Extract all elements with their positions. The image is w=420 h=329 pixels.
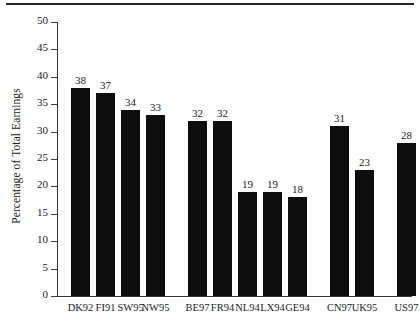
top-divider-rule bbox=[6, 3, 414, 5]
x-tick-label: NL94 bbox=[235, 302, 260, 313]
y-tick-mark bbox=[51, 77, 58, 78]
x-tick-label: GE94 bbox=[285, 302, 310, 313]
bar: 34 bbox=[121, 110, 140, 296]
bar-value-label: 33 bbox=[150, 101, 161, 113]
bar: 37 bbox=[96, 93, 115, 296]
bar-value-label: 34 bbox=[125, 96, 136, 108]
x-axis-line bbox=[57, 296, 412, 297]
bar: 23 bbox=[355, 170, 374, 296]
x-tick-label: SW95 bbox=[117, 302, 143, 313]
x-tick-label: DK92 bbox=[68, 302, 94, 313]
y-tick-mark bbox=[51, 214, 58, 215]
y-tick-label: 25 bbox=[37, 151, 48, 163]
bar-value-label: 32 bbox=[217, 107, 228, 119]
plot-area: 05101520253035404550 3837343332321919183… bbox=[57, 22, 412, 296]
x-tick-label: CN97 bbox=[327, 302, 352, 313]
bar-value-label: 19 bbox=[242, 178, 253, 190]
y-tick-mark bbox=[51, 186, 58, 187]
x-tick-label: UK95 bbox=[352, 302, 378, 313]
y-tick-label: 5 bbox=[43, 261, 49, 273]
y-tick-label: 20 bbox=[37, 178, 48, 190]
y-axis-title: Percentage of Total Earnings bbox=[10, 76, 22, 236]
bar-value-label: 37 bbox=[100, 79, 111, 91]
bar: 28 bbox=[397, 143, 416, 296]
bar-value-label: 28 bbox=[401, 129, 412, 141]
bar: 19 bbox=[263, 192, 282, 296]
bar: 19 bbox=[238, 192, 257, 296]
bar-value-label: 23 bbox=[359, 156, 370, 168]
y-tick-mark bbox=[51, 132, 58, 133]
x-tick-label: LX94 bbox=[260, 302, 285, 313]
y-tick-label: 15 bbox=[37, 206, 48, 218]
y-tick-mark bbox=[51, 269, 58, 270]
y-tick-label: 50 bbox=[37, 14, 48, 26]
bar: 31 bbox=[330, 126, 349, 296]
y-tick-label: 0 bbox=[43, 288, 49, 300]
bar-value-label: 32 bbox=[192, 107, 203, 119]
bar: 18 bbox=[288, 197, 307, 296]
y-tick-mark bbox=[51, 241, 58, 242]
y-tick-mark bbox=[51, 22, 58, 23]
x-tick-label: BE97 bbox=[186, 302, 210, 313]
bar: 32 bbox=[188, 121, 207, 296]
x-tick-label: FR94 bbox=[211, 302, 234, 313]
y-tick-mark bbox=[51, 49, 58, 50]
x-tick-label: NW95 bbox=[142, 302, 170, 313]
y-tick-label: 45 bbox=[37, 41, 48, 53]
x-tick-label: US97 bbox=[395, 302, 419, 313]
y-tick-mark bbox=[51, 296, 58, 297]
bar: 32 bbox=[213, 121, 232, 296]
bar: 38 bbox=[71, 88, 90, 296]
y-tick-mark bbox=[51, 159, 58, 160]
chart-figure: Percentage of Total Earnings 05101520253… bbox=[0, 0, 420, 329]
y-tick-label: 40 bbox=[37, 69, 48, 81]
bar-value-label: 31 bbox=[334, 112, 345, 124]
y-tick-label: 30 bbox=[37, 124, 48, 136]
y-tick-mark bbox=[51, 104, 58, 105]
y-tick-label: 10 bbox=[37, 233, 48, 245]
y-tick-label: 35 bbox=[37, 96, 48, 108]
bar-value-label: 19 bbox=[267, 178, 278, 190]
bar: 33 bbox=[146, 115, 165, 296]
bar-value-label: 38 bbox=[75, 74, 86, 86]
bar-value-label: 18 bbox=[292, 183, 303, 195]
x-tick-label: FI91 bbox=[96, 302, 116, 313]
